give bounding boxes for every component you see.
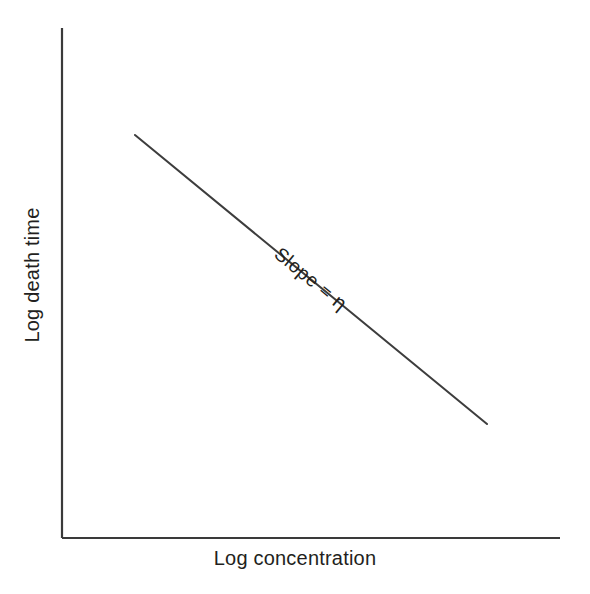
x-axis-label: Log concentration (0, 547, 590, 570)
chart-figure: Slope = η Log concentration Log death ti… (0, 0, 590, 594)
y-axis-label: Log death time (21, 207, 44, 342)
plot-area-svg (0, 0, 590, 594)
